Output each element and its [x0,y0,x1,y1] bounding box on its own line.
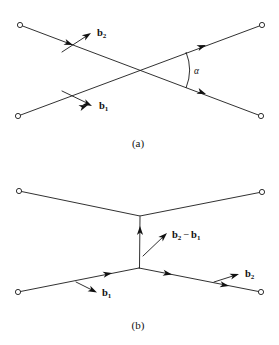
leader-arrowhead-b1-panel-b [88,286,99,296]
label-b1-panel-b: b1 [102,287,112,300]
panel-b-caption: (b) [132,319,145,332]
panel-a-caption: (a) [132,137,145,150]
label-b2-minus-b1-subscript2: 1 [197,234,201,242]
segment-bottom-left-arm [18,268,139,292]
angle-alpha-arc [186,52,190,88]
label-b2-panel-a: b2 [97,27,107,40]
label-b2-minus-b1-operator: − [184,229,190,240]
segment-top-left-arm [19,191,140,216]
panel-b: b2−b1 b1 b2 (b) [15,188,264,332]
node-b-bottom-right [258,289,263,294]
label-b1-panel-a: b1 [99,100,109,113]
segment-vertical-link [140,217,141,268]
node-b-top-right [259,189,264,194]
node-a-top-right [259,22,264,27]
node-a-bottom-right [258,113,263,118]
leader-arrowhead-b2 [82,30,93,40]
label-b2-panel-b: b2 [245,268,255,281]
arrowhead-inner-right [163,270,173,278]
label-b2-panel-a-subscript: 2 [103,32,107,40]
label-b2-panel-b-subscript: 2 [251,273,255,281]
panel-a: b2 b1 α (a) [15,22,264,150]
angle-alpha-label: α [194,66,200,76]
label-b2-minus-b1-subscript: 2 [178,234,182,242]
label-b1-panel-b-subscript: 1 [108,292,112,300]
leader-arrowhead-b2-panel-b [229,271,239,280]
segment-top-right-arm [140,192,262,216]
label-b1-panel-a-subscript: 1 [105,105,109,113]
node-b-bottom-left [15,289,20,294]
node-b-top-left [16,188,21,193]
leader-line-b1 [62,91,89,104]
figure-root: b2 b1 α (a) [0,0,279,345]
node-a-bottom-left [15,113,20,118]
arrowhead-upper-right [196,42,207,51]
segment-bottom-right-arm [139,268,261,292]
figure-canvas: b2 b1 α (a) [0,0,279,345]
label-b2-minus-b1: b2−b1 [172,229,201,242]
leader-line-b2-minus-b1 [143,236,164,256]
node-a-top-left [17,22,22,27]
arrowhead-b2-upper-left [63,39,74,48]
